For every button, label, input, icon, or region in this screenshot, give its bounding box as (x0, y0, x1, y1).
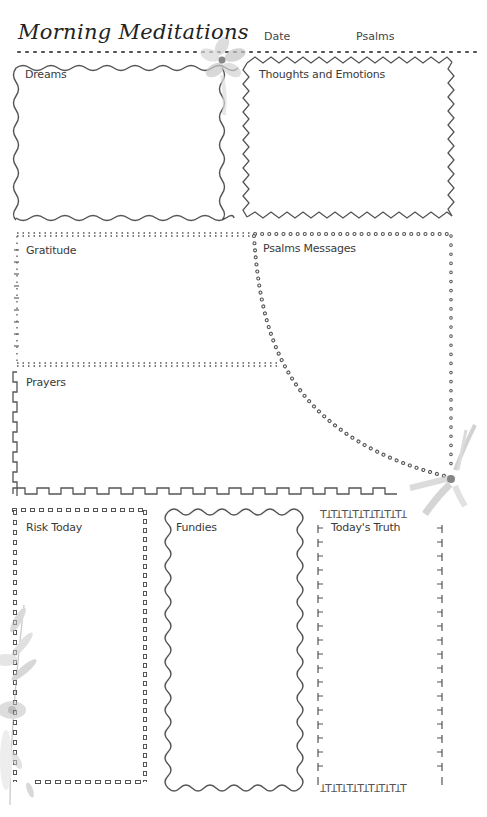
date-label: Date (264, 30, 290, 43)
todays-truth-label: Today's Truth (331, 521, 400, 534)
gratitude-label: Gratitude (26, 244, 76, 257)
thoughts-area[interactable] (253, 84, 445, 210)
fundies-area[interactable] (174, 538, 294, 782)
gratitude-area[interactable] (24, 260, 252, 360)
prayers-label: Prayers (26, 376, 66, 389)
dreams-area[interactable] (22, 84, 218, 212)
psalms-label: Psalms (356, 30, 394, 43)
dreams-label: Dreams (25, 68, 67, 81)
thoughts-label: Thoughts and Emotions (259, 68, 385, 81)
fundies-label: Fundies (176, 521, 217, 534)
svg-text:TꞱTꞱTꞱTꞱTꞱTꞱTꞱTꞱ: TꞱTꞱTꞱTꞱTꞱTꞱTꞱTꞱ (319, 508, 407, 521)
psalms-messages-area[interactable] (262, 258, 446, 458)
risk-today-label: Risk Today (26, 521, 82, 534)
prayers-area[interactable] (24, 392, 284, 484)
page-title: Morning Meditations (18, 20, 249, 44)
todays-truth-area[interactable] (328, 538, 436, 782)
psalms-messages-label: Psalms Messages (263, 242, 356, 255)
risk-today-area[interactable] (24, 538, 139, 776)
svg-text:ꞱTꞱTꞱTꞱTꞱTꞱTꞱTꞱT: ꞱTꞱTꞱTꞱTꞱTꞱTꞱTꞱT (320, 782, 407, 795)
